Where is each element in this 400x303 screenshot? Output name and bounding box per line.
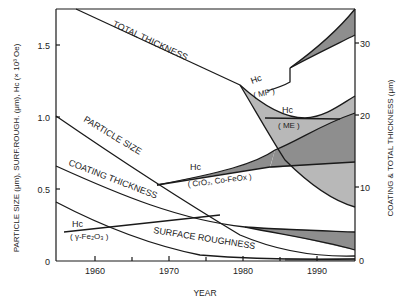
label-particle-size: PARTICLE SIZE [82, 114, 143, 156]
y-tick-1.5: 1.5 [37, 41, 50, 51]
x-tick-1970: 1970 [159, 266, 179, 276]
y-right-axis-title: COATING & TOTAL THICKNESS (μm) [386, 79, 395, 216]
x-axis-title: YEAR [193, 288, 216, 298]
y-tick-0.5: 0.5 [37, 185, 50, 195]
x-tick-1980: 1980 [233, 266, 253, 276]
x-tick-1960: 1960 [85, 266, 105, 276]
y-left-axis-title: PARTICLE SIZE (μm), SURF.ROUGH. (μm), Hc… [12, 43, 21, 252]
hc-mp-lower [290, 35, 355, 68]
label-me: ( ME ) [278, 121, 300, 130]
y2-tick-10: 10 [360, 183, 370, 193]
y-tick-1.0: 1.0 [37, 113, 50, 123]
y-tick-0: 0 [45, 257, 50, 267]
label-coating-thickness: COATING THICKNESS [67, 158, 159, 201]
label-hc-cro2: Hc [190, 162, 201, 172]
x-tick-1990: 1990 [307, 266, 327, 276]
y2-tick-20: 20 [360, 111, 370, 121]
label-hc-mp: Hc [249, 73, 263, 86]
y2-tick-30: 30 [360, 39, 370, 49]
y2-tick-0: 0 [359, 256, 364, 266]
label-total-thickness: TOTAL THICKNESS [111, 19, 189, 63]
mp-band [290, 9, 355, 68]
label-mp: ( MP ) [253, 87, 276, 100]
chart: 1960 1970 1980 1990 0 0.5 1.0 1.5 0 10 2… [0, 0, 400, 303]
label-fe2o3: ( γ-Fe₂O₃ ) [70, 232, 109, 241]
label-hc-me: Hc [282, 105, 293, 115]
hc-mp-line [267, 9, 355, 91]
label-hc-fe2o3: Hc [72, 219, 83, 229]
